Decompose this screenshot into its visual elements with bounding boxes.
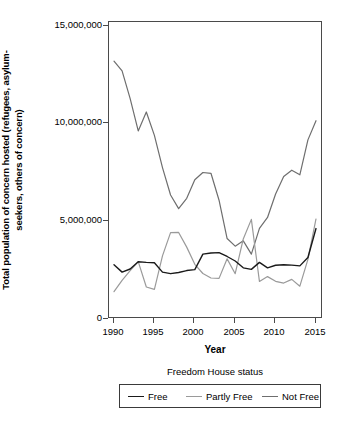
y-axis-title-line2: seekers, others of concern): [13, 109, 24, 230]
legend-item-not-free[interactable]: Not Free: [262, 385, 319, 407]
x-tick-mark-2000: [193, 318, 194, 323]
line-partly-free: [114, 219, 316, 292]
x-tick-label-1995: 1995: [131, 326, 175, 337]
x-tick-label-2015: 2015: [293, 326, 337, 337]
y-tick-label-0: 0: [30, 313, 102, 323]
y-tick-mark-0: [103, 318, 108, 319]
legend-label-free: Free: [148, 391, 168, 402]
x-tick-mark-1995: [153, 318, 154, 323]
y-axis-title-line1: Total population of concern hosted (refu…: [0, 50, 11, 289]
x-tick-label-2010: 2010: [252, 326, 296, 337]
x-tick-mark-1990: [113, 318, 114, 323]
y-tick-label-5000000: 5,000,000: [30, 215, 102, 225]
y-axis-tick-labels: 15,000,000 10,000,000 5,000,000 0: [28, 0, 102, 340]
x-tick-label-2000: 2000: [171, 326, 215, 337]
x-tick-mark-2005: [234, 318, 235, 323]
legend-title: Freedom House status: [78, 366, 352, 377]
legend-label-not-free: Not Free: [282, 391, 319, 402]
y-tick-label-10000000: 10,000,000: [30, 117, 102, 127]
y-tick-label-15000000: 15,000,000: [30, 20, 102, 30]
legend-box: Free Partly Free Not Free: [119, 384, 321, 408]
x-tick-label-1990: 1990: [91, 326, 135, 337]
y-axis-title: Total population of concern hosted (refu…: [0, 10, 25, 330]
x-axis-title: Year: [108, 344, 322, 355]
plot-area: [108, 21, 322, 318]
line-not-free: [114, 61, 316, 254]
series-canvas: [109, 22, 323, 319]
x-tick-mark-2010: [274, 318, 275, 323]
legend-item-free[interactable]: Free: [128, 385, 168, 407]
line-free: [114, 229, 316, 274]
chart-figure: Total population of concern hosted (refu…: [0, 0, 355, 426]
legend-swatch-free: [128, 396, 144, 397]
x-tick-label-2005: 2005: [212, 326, 256, 337]
legend-swatch-partly-free: [186, 396, 202, 397]
legend-item-partly-free[interactable]: Partly Free: [186, 385, 252, 407]
legend-swatch-not-free: [262, 396, 278, 397]
x-tick-mark-2015: [315, 318, 316, 323]
legend-label-partly-free: Partly Free: [206, 391, 252, 402]
